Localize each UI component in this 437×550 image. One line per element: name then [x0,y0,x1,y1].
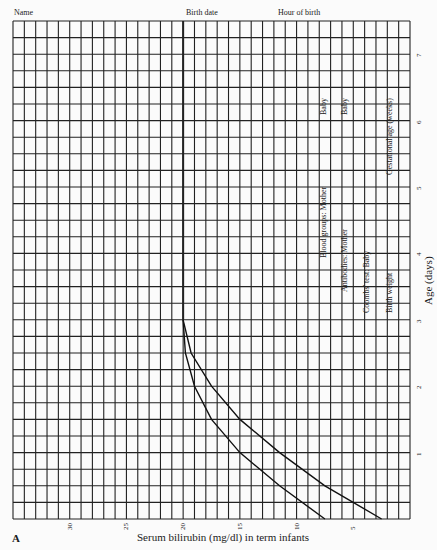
gestational-age-label: Gestational age (weeks) [385,98,394,175]
x-tick-label: 10 [293,523,301,530]
y-axis-label: Age (days) [422,256,434,305]
x-tick-label: 25 [122,523,130,530]
antibodies-baby-label: Baby [340,98,349,115]
chart-grid [0,0,437,550]
blood-groups-mother-label: Blood groups: Mother [319,187,328,258]
coombs-test-label: Coombs' test: Baby [362,251,371,313]
x-tick-label: 15 [236,523,244,530]
y-tick-label: 5 [415,187,423,191]
birth-date-label: Birth date [186,8,218,17]
y-tick-label: 7 [415,54,423,58]
x-tick-label: 30 [66,523,74,530]
x-tick-label: 5 [349,527,357,531]
hour-of-birth-label: Hour of birth [278,8,320,17]
antibodies-mother-label: Antibodies: Mother [340,229,349,292]
birth-weight-label: Birth weight [385,273,394,313]
x-axis-label: Serum bilirubin (mg/dl) in term infants [137,531,309,543]
y-tick-label: 3 [415,319,423,323]
y-tick-label: 2 [415,386,423,390]
y-tick-label: 6 [415,120,423,124]
name-label: Name [14,8,33,17]
blood-groups-baby-label: Baby [319,98,328,115]
x-tick-label: 20 [179,523,187,530]
panel-label: A [12,532,20,544]
y-tick-label: 1 [415,452,423,456]
